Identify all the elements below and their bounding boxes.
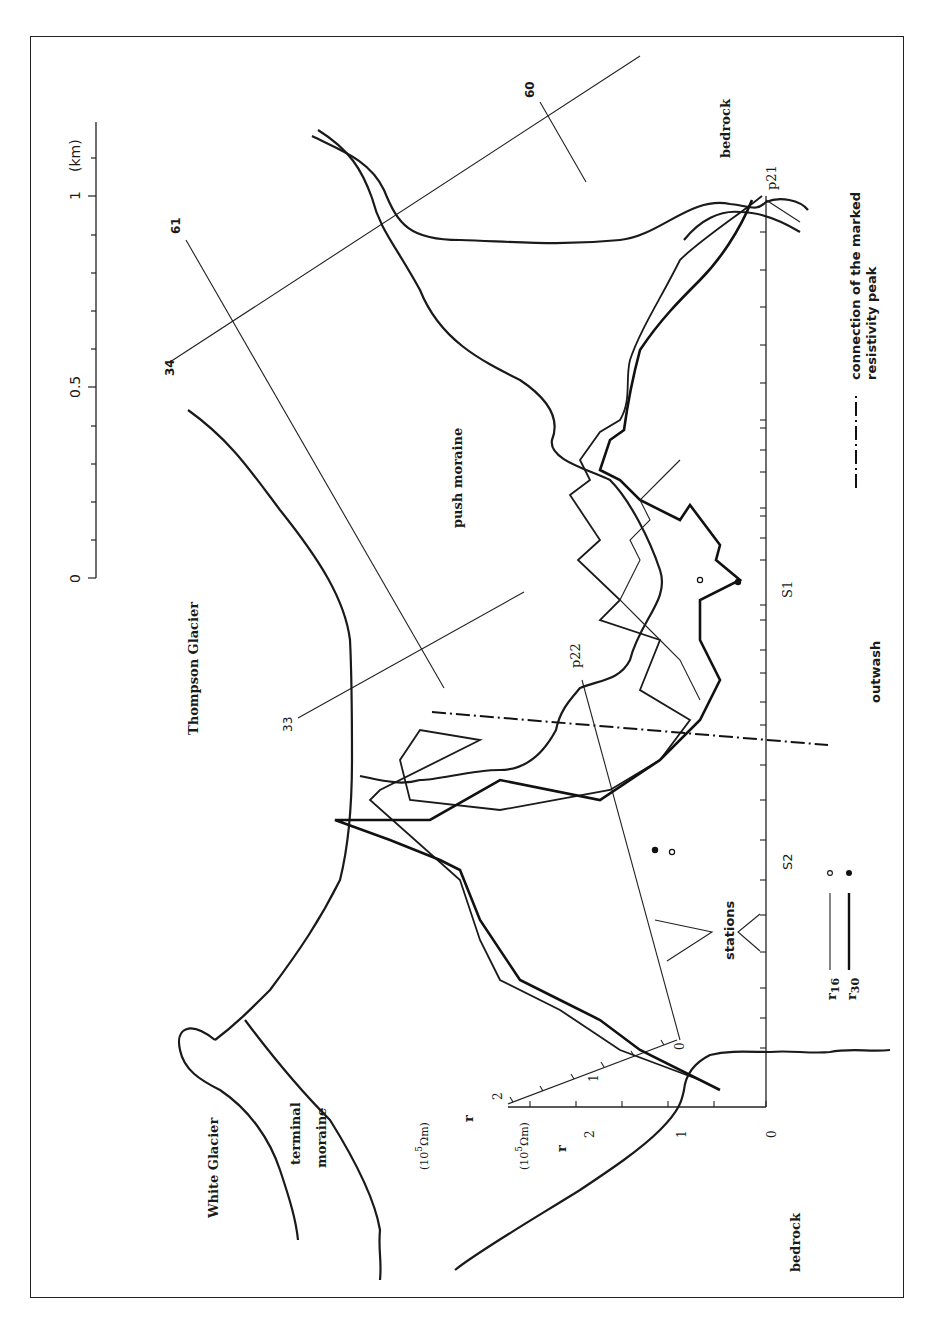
white-glacier-margin xyxy=(179,1029,298,1240)
legend-dashdot-label-1: connection of the marked xyxy=(848,192,863,380)
r16-secondary xyxy=(620,460,700,700)
scale-bar: 0 0.5 1 (km) xyxy=(67,122,96,583)
terminal-moraine-outer xyxy=(245,1020,381,1280)
legend-r30-label: r30 xyxy=(844,977,862,1000)
label-line-33: 33 xyxy=(281,717,295,732)
legend-r16-marker xyxy=(828,871,833,876)
legend-r16-label: r16 xyxy=(824,977,842,1000)
label-line-61: 61 xyxy=(169,217,183,234)
r16-marker-s1 xyxy=(697,577,702,582)
r16-marker-s2 xyxy=(669,849,674,854)
resistivity-profiles xyxy=(335,196,762,1090)
label-bedrock-north: bedrock xyxy=(718,98,733,158)
legend: r16 r30 connection of the marked resisti… xyxy=(824,192,879,1000)
oblique-axis-unit: (105Ωm) xyxy=(414,1122,431,1170)
survey-line-60 xyxy=(540,102,586,182)
label-bedrock-south: bedrock xyxy=(788,1212,803,1272)
r-axis-oblique xyxy=(508,1040,677,1104)
profile-line-p22 xyxy=(582,680,680,1040)
horizontal-tick-1: 1 xyxy=(675,1130,689,1138)
horizontal-axis-symbol: r xyxy=(554,1145,569,1152)
label-push-moraine: push moraine xyxy=(450,428,465,528)
scale-unit: (km) xyxy=(67,139,83,172)
oblique-tick-0: 0 xyxy=(673,1042,687,1050)
horizontal-axis-unit: (105Ωm) xyxy=(514,1122,531,1170)
label-outwash: outwash xyxy=(868,641,883,703)
survey-line-33 xyxy=(298,592,524,718)
thompson-edge xyxy=(188,410,352,1040)
oblique-axis-symbol: r xyxy=(461,1115,476,1122)
station-markers xyxy=(652,577,741,854)
survey-line-61 xyxy=(186,240,444,688)
resistivity-peak-connection-line xyxy=(432,712,828,745)
legend-dashdot-label-2: resistivity peak xyxy=(864,266,879,380)
label-thompson-glacier: Thompson Glacier xyxy=(186,602,201,735)
label-p21: p21 xyxy=(764,165,779,190)
horizontal-tick-2: 2 xyxy=(583,1130,597,1138)
label-s1: S1 xyxy=(780,581,795,598)
label-white-glacier: White Glacier xyxy=(206,1118,221,1219)
label-line-34: 34 xyxy=(163,359,177,376)
label-moraine: moraine xyxy=(314,1108,329,1168)
r16-profile xyxy=(370,196,762,1080)
label-p22: p22 xyxy=(568,643,583,668)
legend-r30-marker xyxy=(846,870,852,876)
label-s2: S2 xyxy=(780,853,795,870)
bedrock-boundary-north xyxy=(684,212,800,240)
label-stations: stations xyxy=(722,900,737,960)
label-terminal: terminal xyxy=(288,1102,303,1165)
r30-marker-s2 xyxy=(652,847,658,853)
r30-profile xyxy=(335,200,752,1090)
scale-tick-1: 1 xyxy=(67,191,83,200)
labels: Thompson Glacier White Glacier terminal … xyxy=(163,81,883,1272)
survey-line-34 xyxy=(170,56,640,362)
oblique-tick-2: 2 xyxy=(491,1092,505,1100)
thompson-margin-east xyxy=(312,136,808,243)
thompson-margin-west xyxy=(318,130,662,783)
oblique-tick-1: 1 xyxy=(587,1074,601,1082)
glacier-resistivity-map: 0 0.5 1 (km) xyxy=(0,0,937,1324)
horizontal-tick-0: 0 xyxy=(765,1130,779,1138)
scale-tick-0: 0 xyxy=(67,574,83,583)
scale-tick-0-5: 0.5 xyxy=(67,376,83,398)
label-line-60: 60 xyxy=(523,81,537,98)
stations-indicator xyxy=(655,914,760,961)
r30-marker-s1 xyxy=(735,579,741,585)
survey-lines xyxy=(170,56,680,1104)
